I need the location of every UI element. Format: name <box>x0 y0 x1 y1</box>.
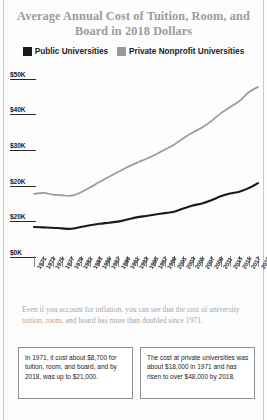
page-title: Average Annual Cost of Tuition, Room, an… <box>12 9 255 38</box>
chart-legend: Public Universities Private Nonprofit Un… <box>0 47 267 56</box>
chart-caption: Even if you account for inflation, you c… <box>22 305 253 326</box>
legend-label-public: Public Universities <box>35 47 108 56</box>
callout-group: In 1971, it cost about $8,700 for tuitio… <box>18 347 255 399</box>
x-axis-tick <box>34 256 35 267</box>
x-axis-labels: 1971197319751977197919811983198519871989… <box>34 267 258 301</box>
legend-label-private: Private Nonprofit Universities <box>129 47 244 56</box>
chart-page: Average Annual Cost of Tuition, Room, an… <box>0 0 267 420</box>
x-axis: 1971197319751977197919811983198519871989… <box>34 256 258 302</box>
y-axis-tick-label: $50K <box>10 71 36 80</box>
page-border-right <box>263 0 264 420</box>
y-axis-tick-label: $40K <box>10 106 36 115</box>
callout-public: In 1971, it cost about $8,700 for tuitio… <box>18 347 133 399</box>
y-axis-tick-label: $20K <box>10 178 36 187</box>
legend-item-public: Public Universities <box>23 47 108 56</box>
y-axis-tick-label: $20K <box>10 213 36 222</box>
legend-item-private: Private Nonprofit Universities <box>117 47 244 56</box>
plot-wrapper: $50K$40K$30K$20K$20K$0K <box>10 62 258 258</box>
y-axis-labels: $50K$40K$30K$20K$20K$0K <box>10 62 36 258</box>
y-axis-tick-label: $30K <box>10 142 36 151</box>
callout-private: The cost at private universities was abo… <box>140 347 255 399</box>
legend-swatch-public <box>23 47 32 56</box>
series-lines <box>34 62 258 258</box>
line-series <box>34 87 258 196</box>
page-border-left <box>3 0 4 420</box>
line-series <box>34 183 258 229</box>
y-axis-tick-label: $0K <box>10 249 36 258</box>
legend-swatch-private <box>117 47 126 56</box>
plot-area <box>34 62 258 258</box>
